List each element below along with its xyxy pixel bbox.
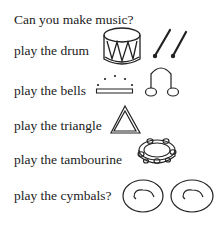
item-bells-label: play the bells <box>14 83 86 99</box>
item-triangle-label: play the triangle <box>14 118 102 134</box>
triangle-icon <box>110 105 142 135</box>
item-tambourine-label: play the tambourine <box>14 152 122 168</box>
cymbals-icon <box>122 180 214 214</box>
page-title: Can you make music? <box>14 12 134 28</box>
bells-icon <box>95 64 185 99</box>
drum-icon <box>101 27 191 67</box>
item-cymbals-label: play the cymbals? <box>14 188 111 204</box>
tambourine-icon <box>136 138 178 170</box>
item-drum-label: play the drum <box>14 43 89 59</box>
